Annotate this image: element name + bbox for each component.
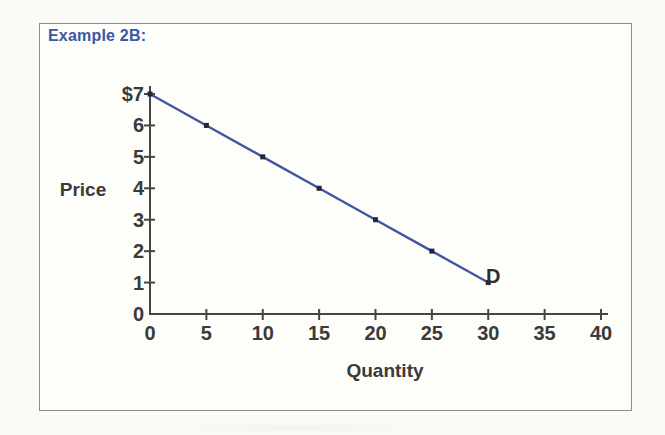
y-tick-label: 6 bbox=[84, 115, 144, 135]
data-point-marker bbox=[317, 186, 322, 191]
y-tick-label: 3 bbox=[84, 210, 144, 230]
x-tick-label: 20 bbox=[364, 323, 386, 343]
x-tick-label: 25 bbox=[421, 323, 443, 343]
x-tick-label: 30 bbox=[477, 323, 499, 343]
demand-curve-label: D bbox=[486, 266, 500, 286]
y-tick-label: 1 bbox=[84, 273, 144, 293]
y-tick-label: 5 bbox=[84, 147, 144, 167]
y-tick-label: $7 bbox=[84, 84, 144, 104]
x-tick-label: 15 bbox=[308, 323, 330, 343]
y-tick-label: 0 bbox=[84, 304, 144, 324]
x-tick-label: 0 bbox=[144, 323, 155, 343]
x-tick-label: 40 bbox=[590, 323, 612, 343]
x-tick-label: 5 bbox=[201, 323, 212, 343]
data-point-marker bbox=[429, 249, 434, 254]
x-axis-title: Quantity bbox=[346, 361, 423, 380]
data-point-marker bbox=[148, 92, 153, 97]
x-tick-label: 35 bbox=[534, 323, 556, 343]
data-point-marker bbox=[204, 123, 209, 128]
x-tick-label: 10 bbox=[252, 323, 274, 343]
y-tick-label: 2 bbox=[84, 241, 144, 261]
y-axis-title: Price bbox=[60, 180, 106, 199]
scanned-page: Example 2B: 05101520253035400123456$7 Pr… bbox=[0, 0, 665, 435]
data-point-marker bbox=[260, 154, 265, 159]
data-point-marker bbox=[373, 217, 378, 222]
